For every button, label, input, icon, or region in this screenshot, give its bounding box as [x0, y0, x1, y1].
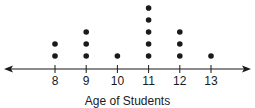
dot-plot: 8910111213 — [0, 0, 255, 108]
data-dot — [208, 53, 214, 59]
tick-label: 8 — [52, 74, 59, 88]
x-axis-label: Age of Students — [0, 94, 255, 108]
tick-label: 9 — [83, 74, 90, 88]
tick-label: 10 — [111, 74, 125, 88]
tick-label: 13 — [204, 74, 218, 88]
data-dot — [146, 41, 152, 47]
data-dot — [146, 17, 152, 23]
tick-label: 12 — [173, 74, 187, 88]
data-dot — [146, 5, 152, 11]
data-dot — [177, 53, 183, 59]
data-dot — [177, 29, 183, 35]
data-dot — [146, 29, 152, 35]
data-dot — [115, 53, 121, 59]
tick-label: 11 — [142, 74, 155, 88]
dots — [52, 5, 214, 59]
data-dot — [177, 41, 183, 47]
data-dot — [83, 29, 89, 35]
data-dot — [83, 53, 89, 59]
data-dot — [52, 41, 58, 47]
data-dot — [52, 53, 58, 59]
data-dot — [146, 53, 152, 59]
number-line — [4, 66, 251, 73]
data-dot — [83, 41, 89, 47]
